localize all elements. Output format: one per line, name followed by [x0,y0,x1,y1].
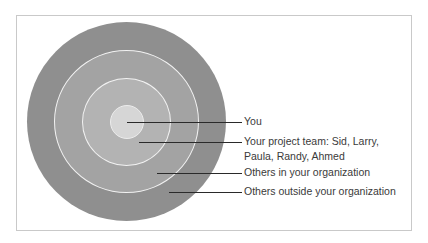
label-outside-text: Others outside your organization [244,185,396,197]
leader-line-you [127,122,242,123]
label-you-text: You [244,115,262,127]
label-team-line1: Your project team: Sid, Larry, [244,135,379,148]
leader-line-outside [169,192,242,193]
label-team-line2: Paula, Randy, Ahmed [244,150,379,163]
leader-line-organization [157,173,242,174]
label-you: You [244,115,262,128]
label-project-team: Your project team: Sid, Larry, Paula, Ra… [244,135,379,163]
label-organization: Others in your organization [244,166,370,179]
leader-line-team [139,142,242,143]
label-organization-text: Others in your organization [244,166,370,178]
label-outside-organization: Others outside your organization [244,185,396,198]
